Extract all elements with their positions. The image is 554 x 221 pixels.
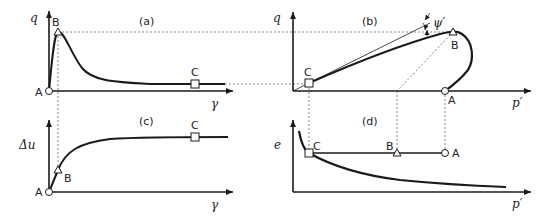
d-point-a-label: A — [452, 147, 460, 160]
a-xlabel: γ — [211, 97, 219, 111]
c-point-a-circle — [46, 189, 53, 196]
d-point-a-circle — [442, 150, 449, 157]
d-point-b-label: B — [386, 140, 394, 153]
soil-stress-path-diagram: q (a) γ B C A q (b) ψ′ p′ B C A Δu (c) γ — [0, 0, 554, 221]
panel-d: e (d) p′ C B A — [274, 115, 531, 211]
guide-lines — [58, 32, 453, 170]
d-ncl-curve — [299, 131, 506, 187]
d-ylabel: e — [274, 138, 281, 152]
c-curve — [49, 137, 228, 192]
d-point-c-label: C — [313, 140, 321, 153]
a-ylabel: q — [30, 11, 38, 25]
panel-b: q (b) ψ′ p′ B C A — [273, 11, 531, 110]
b-panel-label: (b) — [362, 15, 378, 28]
b-undrained-slope-guide — [397, 32, 453, 91]
b-point-c-label: C — [304, 66, 312, 79]
b-point-a-label: A — [448, 94, 456, 107]
b-point-a-circle — [442, 88, 449, 95]
a-point-b-triangle — [54, 28, 62, 35]
c-point-b-triangle — [54, 166, 62, 173]
c-ylabel: Δu — [18, 138, 35, 152]
c-point-a-label: A — [35, 186, 43, 199]
b-xlabel: p′ — [512, 96, 523, 110]
c-point-c-square — [191, 133, 199, 141]
panel-c: Δu (c) γ B C A — [18, 115, 233, 212]
c-point-c-label: C — [191, 119, 199, 132]
a-panel-label: (a) — [139, 15, 154, 28]
c-xlabel: γ — [211, 198, 219, 212]
a-point-a-circle — [46, 88, 53, 95]
c-point-b-label: B — [64, 172, 72, 185]
b-angle-arrow — [425, 13, 430, 20]
b-point-b-label: B — [451, 39, 459, 52]
a-point-a-label: A — [35, 86, 43, 99]
b-angle-label: ψ′ — [433, 16, 445, 30]
b-point-c-square — [305, 79, 313, 87]
panel-a: q (a) γ B C A — [30, 11, 233, 111]
c-panel-label: (c) — [139, 115, 154, 128]
a-point-b-label: B — [52, 16, 60, 29]
d-panel-label: (d) — [362, 115, 378, 128]
d-xlabel: p′ — [512, 197, 523, 211]
a-point-c-label: C — [191, 66, 199, 79]
a-point-c-square — [191, 80, 199, 88]
b-ylabel: q — [273, 11, 281, 25]
d-point-c-square — [305, 149, 313, 157]
b-stress-path — [309, 32, 472, 91]
